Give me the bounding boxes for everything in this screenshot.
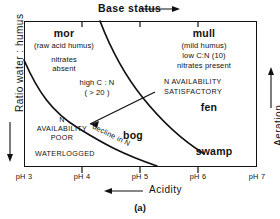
top-axis-ticks xyxy=(82,21,198,27)
zone-mor-line-3: absent xyxy=(52,65,75,73)
note-high-cn-ratio: high C : N xyxy=(80,79,115,87)
x-tick-label-ph6: pH 6 xyxy=(190,173,206,181)
right-axis-label: Aeration xyxy=(273,105,280,146)
decline-in-n-arrow xyxy=(90,92,155,128)
zone-mull-line-3: nitrates present xyxy=(177,62,231,70)
zone-label-fen: fen xyxy=(201,102,217,113)
diagram-vector-layer xyxy=(0,0,280,219)
note-n-availability-satisfactory-line-2: SATISFACTORY xyxy=(164,88,222,96)
ratio-water-humus-arrow xyxy=(7,122,13,162)
x-tick-label-ph4: pH 4 xyxy=(74,173,90,181)
zone-mor-line-1: (raw acid humus) xyxy=(34,42,94,50)
zone-label-mull: mull xyxy=(193,28,215,39)
left-axis-label: Ratio water : humus xyxy=(14,14,25,112)
zone-label-swamp: swamp xyxy=(196,146,233,157)
note-n-availability-poor-line-3: POOR xyxy=(51,134,74,142)
aeration-arrow xyxy=(268,67,274,108)
soil-humus-ph-diagram: Base status Ratio water : humus Aeration… xyxy=(0,0,280,219)
bottom-axis-label: Acidity xyxy=(149,185,182,196)
x-tick-label-ph3: pH 3 xyxy=(16,173,32,181)
zone-label-bog: bog xyxy=(123,130,143,141)
x-tick-label-ph7: pH 7 xyxy=(249,173,265,181)
note-n-availability-poor-line-1: N xyxy=(59,116,65,124)
top-axis-label: Base status xyxy=(98,3,161,14)
note-n-availability-poor-line-2: AVAILABILITY xyxy=(37,125,87,133)
note-n-availability-satisfactory-line-1: N AVAILABILITY xyxy=(164,78,222,86)
note-high-cn-value: ( > 20 ) xyxy=(84,89,109,97)
figure-caption: (a) xyxy=(134,203,146,213)
x-tick-label-ph5: pH 5 xyxy=(132,173,148,181)
acidity-arrow xyxy=(104,188,143,194)
zone-mull-line-2: low C:N (10) xyxy=(182,52,225,60)
zone-mor-line-2: nitrates xyxy=(51,56,77,64)
zone-label-mor: mor xyxy=(54,28,74,39)
zone-mull-line-1: (mild humus) xyxy=(181,42,226,50)
note-waterlogged: WATERLOGGED xyxy=(35,150,95,158)
